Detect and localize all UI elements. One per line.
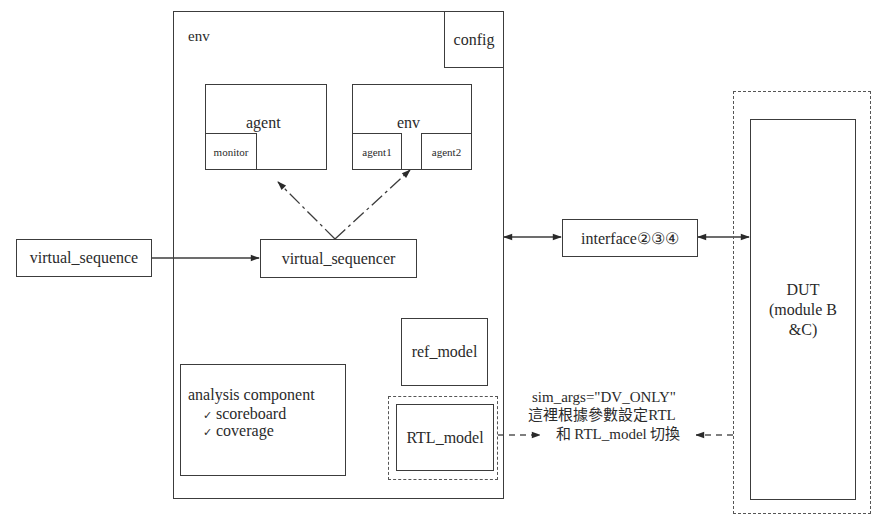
rtl-model-label: RTL_model	[406, 429, 483, 447]
dut-label-line2: (module B	[769, 300, 837, 320]
rtl-model-box: RTL_model	[396, 404, 494, 471]
annotation-line2: 這裡根據參數設定RTL	[522, 408, 682, 423]
analysis-item-coverage: ✓ coverage	[203, 423, 274, 439]
inner-env-label: env	[397, 115, 420, 131]
config-label: config	[454, 31, 495, 49]
scoreboard-label: scoreboard	[216, 405, 286, 422]
interface-box: interface②③④	[562, 219, 698, 257]
dut-label-line3: &C)	[789, 320, 817, 340]
agent2-label: agent2	[432, 146, 461, 158]
check-icon: ✓	[203, 409, 212, 421]
virtual-sequencer-box: virtual_sequencer	[260, 239, 417, 278]
check-icon: ✓	[203, 426, 212, 438]
virtual-sequence-box: virtual_sequence	[16, 239, 152, 277]
annotation-line1: sim_args="DV_ONLY"	[532, 390, 672, 405]
annotation-line3: 和 RTL_model 切換	[540, 427, 696, 442]
virtual-sequencer-label: virtual_sequencer	[282, 250, 396, 268]
virtual-sequence-label: virtual_sequence	[30, 249, 138, 267]
analysis-component-box: analysis component ✓ scoreboard ✓ covera…	[180, 364, 346, 476]
config-box: config	[444, 11, 504, 68]
interface-label: interface②③④	[581, 229, 679, 248]
agent1-label: agent1	[362, 146, 391, 158]
ref-model-box: ref_model	[401, 318, 488, 386]
monitor-label: monitor	[214, 146, 249, 158]
dut-label-line1: DUT	[787, 280, 820, 300]
agent-label: agent	[246, 115, 281, 131]
analysis-item-scoreboard: ✓ scoreboard	[203, 406, 286, 422]
ref-model-label: ref_model	[412, 343, 478, 361]
agent2-box: agent2	[421, 133, 472, 170]
env-label: env	[188, 29, 210, 44]
monitor-box: monitor	[205, 133, 257, 170]
dut-box: DUT (module B &C)	[750, 119, 856, 500]
coverage-label: coverage	[216, 422, 274, 439]
analysis-component-title: analysis component	[188, 387, 315, 403]
agent1-box: agent1	[352, 133, 402, 170]
